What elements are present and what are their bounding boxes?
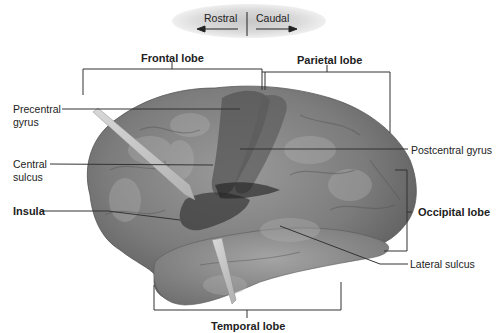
frontal-lobe-label: Frontal lobe (141, 52, 204, 64)
diagram-graphics (0, 0, 498, 333)
precentral-gyrus-label-line1: Precentral (13, 103, 61, 115)
central-sulcus-label-line1: Central (13, 158, 47, 170)
central-sulcus-label-line2: sulcus (13, 171, 43, 183)
temporal-lobe-label: Temporal lobe (211, 320, 285, 332)
precentral-gyrus-label-line2: gyrus (13, 116, 39, 128)
brain-illustration (87, 86, 416, 305)
lateral-sulcus-label: Lateral sulcus (410, 258, 475, 270)
insula-label: Insula (13, 205, 45, 217)
parietal-lobe-label: Parietal lobe (297, 54, 362, 66)
postcentral-gyrus-label: Postcentral gyrus (411, 144, 492, 156)
brain-lateral-view-diagram: Rostral Caudal (0, 0, 498, 333)
occipital-lobe-label: Occipital lobe (418, 206, 490, 218)
orientation-arrows (197, 12, 297, 36)
